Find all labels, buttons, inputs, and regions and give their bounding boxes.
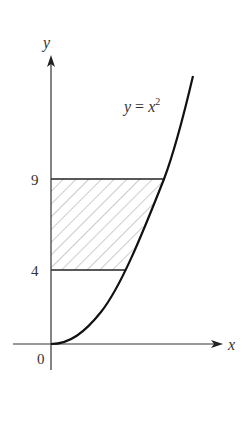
curve-label: y = x2	[122, 96, 160, 116]
parabola-diagram: y x 0 9 4 y = x2	[0, 0, 247, 422]
x-axis-label: x	[227, 336, 235, 353]
origin-label: 0	[37, 351, 45, 367]
tick-label-9: 9	[31, 172, 39, 188]
y-axis-label: y	[41, 34, 51, 52]
tick-label-4: 4	[31, 263, 39, 279]
shaded-region	[51, 179, 164, 270]
